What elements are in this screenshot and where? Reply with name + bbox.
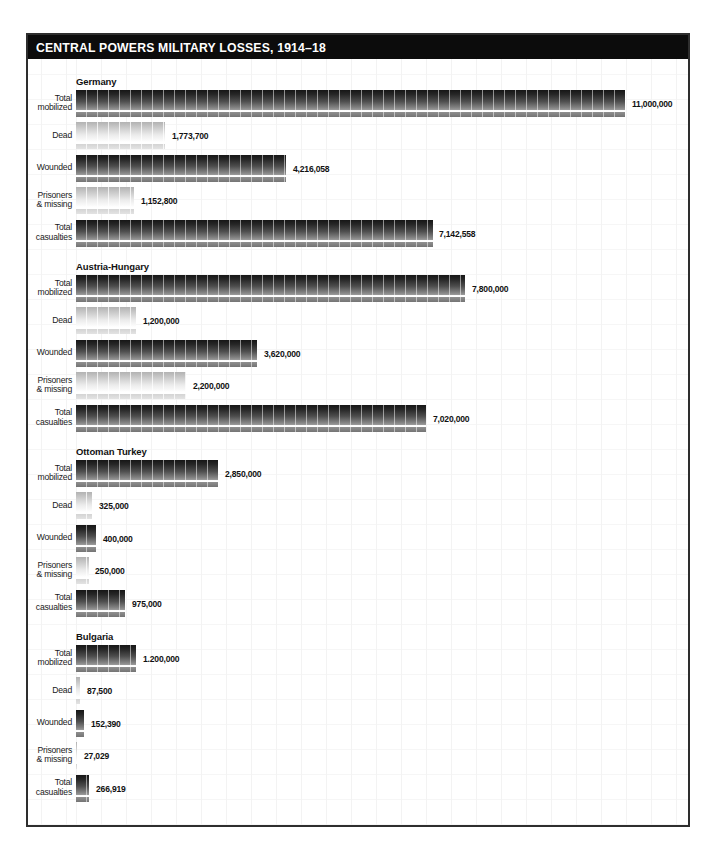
value-label: 325,000 xyxy=(99,501,129,511)
section-header-ottoman-turkey: Ottoman Turkey xyxy=(76,446,147,457)
value-label: 4,216,058 xyxy=(293,164,329,174)
figure-frame: CENTRAL POWERS MILITARY LOSSES, 1914–18 … xyxy=(26,33,690,827)
row-label: Prisoners& missing xyxy=(28,746,72,765)
section-header-bulgaria: Bulgaria xyxy=(76,631,113,642)
value-label: 266,919 xyxy=(96,784,126,794)
value-label: 975,000 xyxy=(132,599,162,609)
bar xyxy=(76,775,89,802)
row-label: Wounded xyxy=(28,718,72,728)
bar xyxy=(76,645,136,672)
bar xyxy=(76,677,80,704)
row-label: Dead xyxy=(28,501,72,511)
value-label: 2,850,000 xyxy=(225,469,261,479)
value-label: 2,200,000 xyxy=(193,381,229,391)
value-label: 1,200,000 xyxy=(143,316,179,326)
row-label: Wounded xyxy=(28,348,72,358)
bar xyxy=(76,340,257,367)
row-label: Wounded xyxy=(28,533,72,543)
bar xyxy=(76,492,92,519)
bar xyxy=(76,90,625,117)
value-label: 7,020,000 xyxy=(433,414,469,424)
row-label: Totalmobilized xyxy=(28,94,72,113)
bar xyxy=(76,307,136,334)
row-label: Totalcasualties xyxy=(28,593,72,612)
bar xyxy=(76,187,134,214)
bar xyxy=(76,405,426,432)
bar xyxy=(76,590,125,617)
bar xyxy=(76,155,286,182)
value-label: 1,773,700 xyxy=(172,131,208,141)
row-label: Totalmobilized xyxy=(28,464,72,483)
chart-title-bar: CENTRAL POWERS MILITARY LOSSES, 1914–18 xyxy=(28,35,688,59)
section-header-germany: Germany xyxy=(76,76,117,87)
value-label: 1.200,000 xyxy=(143,654,179,664)
row-label: Totalmobilized xyxy=(28,649,72,668)
bar xyxy=(76,557,89,584)
bar xyxy=(76,275,465,302)
row-label: Totalcasualties xyxy=(28,223,72,242)
bar xyxy=(76,372,186,399)
bar xyxy=(76,525,96,552)
row-label: Totalcasualties xyxy=(28,778,72,797)
chart-area: GermanyTotalmobilized11,000,000Dead1,773… xyxy=(28,59,688,825)
value-label: 11,000,000 xyxy=(632,99,672,109)
row-label: Wounded xyxy=(28,163,72,173)
value-label: 1,152,800 xyxy=(141,196,177,206)
bar xyxy=(76,710,84,737)
row-label: Dead xyxy=(28,686,72,696)
value-label: 250,000 xyxy=(95,566,125,576)
value-label: 3,620,000 xyxy=(264,349,300,359)
row-label: Dead xyxy=(28,316,72,326)
value-label: 7,800,000 xyxy=(472,284,508,294)
bar xyxy=(76,122,165,149)
value-label: 27,029 xyxy=(84,751,109,761)
bar xyxy=(76,220,433,247)
row-label: Totalmobilized xyxy=(28,279,72,298)
bar xyxy=(76,460,218,487)
row-label: Prisoners& missing xyxy=(28,376,72,395)
value-label: 87,500 xyxy=(87,686,112,696)
row-label: Prisoners& missing xyxy=(28,191,72,210)
row-label: Dead xyxy=(28,131,72,141)
value-label: 400,000 xyxy=(103,534,133,544)
row-label: Totalcasualties xyxy=(28,408,72,427)
row-label: Prisoners& missing xyxy=(28,561,72,580)
value-label: 7,142,558 xyxy=(439,229,475,239)
value-label: 152,390 xyxy=(91,719,121,729)
chart-title: CENTRAL POWERS MILITARY LOSSES, 1914–18 xyxy=(36,40,326,55)
bar xyxy=(76,742,77,769)
section-header-austria-hungary: Austria-Hungary xyxy=(76,261,149,272)
